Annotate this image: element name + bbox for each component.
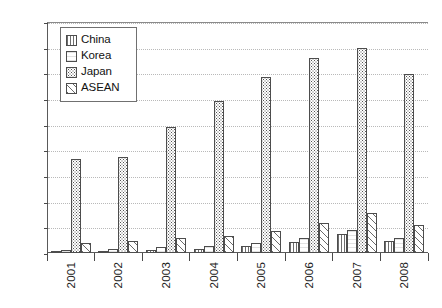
legend-item-china: China xyxy=(66,32,131,48)
x-axis-tick-label: 2003 xyxy=(160,262,172,288)
legend-item-korea: Korea xyxy=(66,48,131,64)
legend-swatch-icon xyxy=(66,67,77,78)
x-label-cell-2006: 2006 xyxy=(285,262,333,308)
bar-korea-2006 xyxy=(299,238,309,253)
x-label-cell-2008: 2008 xyxy=(380,262,428,308)
bar-japan-2003 xyxy=(166,127,176,253)
bar-group-2004 xyxy=(190,22,238,253)
x-axis-tick-mark xyxy=(428,253,429,261)
x-axis-ticks xyxy=(47,253,428,262)
x-tick-cell-2002 xyxy=(95,253,143,262)
legend-item-japan: Japan xyxy=(66,64,131,80)
x-axis-tick-label: 2007 xyxy=(351,262,363,288)
x-axis-tick-mark xyxy=(285,253,286,261)
x-axis-tick-mark xyxy=(94,253,95,261)
bar-korea-2004 xyxy=(204,246,214,253)
bar-asean-2002 xyxy=(128,241,138,253)
bar-china-2007 xyxy=(337,234,347,254)
bar-chart: 450040003500300025002000150010005000 200… xyxy=(0,0,442,308)
bar-group-2005 xyxy=(238,22,286,253)
bar-asean-2001 xyxy=(81,243,91,253)
x-label-cell-2001: 2001 xyxy=(47,262,95,308)
bar-japan-2007 xyxy=(357,48,367,253)
legend-item-asean: ASEAN xyxy=(66,80,131,96)
chart-legend: ChinaKoreaJapanASEAN xyxy=(60,27,137,102)
x-tick-cell-2003 xyxy=(142,253,190,262)
x-axis-tick-mark xyxy=(380,253,381,261)
x-axis-tick-label: 2002 xyxy=(112,262,124,288)
x-label-cell-2004: 2004 xyxy=(190,262,238,308)
bar-asean-2004 xyxy=(224,236,234,253)
x-axis-tick-mark xyxy=(332,253,333,261)
bar-asean-2003 xyxy=(176,238,186,253)
bar-asean-2006 xyxy=(319,223,329,253)
legend-item-label: Korea xyxy=(81,50,111,62)
x-tick-cell-2006 xyxy=(285,253,333,262)
bar-group-2003 xyxy=(142,22,190,253)
x-axis-labels: 20012002200320042005200620072008 xyxy=(47,262,428,308)
bar-group-2008 xyxy=(380,22,428,253)
x-tick-cell-2005 xyxy=(238,253,286,262)
x-tick-cell-2001 xyxy=(47,253,95,262)
x-axis-tick-label: 2008 xyxy=(398,262,410,288)
x-tick-cell-2008 xyxy=(380,253,428,262)
x-tick-cell-2007 xyxy=(333,253,381,262)
x-axis-tick-mark xyxy=(142,253,143,261)
x-label-cell-2003: 2003 xyxy=(142,262,190,308)
x-axis-tick-mark xyxy=(47,253,48,261)
x-axis-tick-label: 2001 xyxy=(65,262,77,288)
x-axis-tick-mark xyxy=(237,253,238,261)
bar-korea-2007 xyxy=(347,230,357,253)
bar-korea-2005 xyxy=(251,243,261,253)
bar-japan-2008 xyxy=(404,74,414,253)
bar-japan-2002 xyxy=(118,157,128,254)
bar-japan-2001 xyxy=(71,159,81,253)
bar-china-2005 xyxy=(241,246,251,253)
x-axis-tick-label: 2006 xyxy=(303,262,315,288)
bar-japan-2006 xyxy=(309,58,319,253)
bar-group-2007 xyxy=(333,22,381,253)
bar-group-2006 xyxy=(285,22,333,253)
bar-japan-2005 xyxy=(261,77,271,253)
legend-item-label: China xyxy=(81,34,111,46)
x-axis-tick-mark xyxy=(189,253,190,261)
x-label-cell-2007: 2007 xyxy=(333,262,381,308)
x-label-cell-2002: 2002 xyxy=(95,262,143,308)
x-axis-tick-label: 2005 xyxy=(255,262,267,288)
bar-china-2008 xyxy=(384,241,394,253)
legend-swatch-icon xyxy=(66,35,77,46)
legend-swatch-icon xyxy=(66,83,77,94)
bar-asean-2005 xyxy=(271,231,281,253)
x-label-cell-2005: 2005 xyxy=(238,262,286,308)
legend-swatch-icon xyxy=(66,51,77,62)
x-axis-tick-label: 2004 xyxy=(208,262,220,288)
bar-china-2006 xyxy=(289,242,299,253)
legend-item-label: Japan xyxy=(81,66,112,78)
x-tick-cell-2004 xyxy=(190,253,238,262)
bar-japan-2004 xyxy=(214,101,224,253)
bar-asean-2007 xyxy=(367,213,377,253)
bar-asean-2008 xyxy=(414,225,424,253)
bar-korea-2008 xyxy=(394,238,404,253)
legend-item-label: ASEAN xyxy=(81,82,120,94)
